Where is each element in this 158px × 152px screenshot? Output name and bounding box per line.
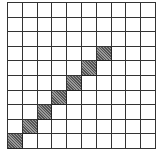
grid-cell <box>67 120 82 135</box>
grid-cell <box>82 76 97 91</box>
grid-cell <box>67 134 82 149</box>
grid-cell <box>52 61 67 76</box>
grid-cell <box>126 134 141 149</box>
grid-cell <box>8 18 23 33</box>
grid-cell <box>126 76 141 91</box>
grid-cell <box>38 61 53 76</box>
grid-cell <box>112 134 127 149</box>
grid-cell <box>126 32 141 47</box>
grid-cell <box>52 134 67 149</box>
grid-cell <box>141 76 156 91</box>
grid-cell <box>82 32 97 47</box>
grid-cell <box>126 3 141 18</box>
grid-cell <box>38 47 53 62</box>
grid-cell <box>141 91 156 106</box>
grid-cell <box>8 120 23 135</box>
grid-cell <box>82 47 97 62</box>
grid-cell <box>8 105 23 120</box>
grid-cell <box>141 134 156 149</box>
shaded-cell <box>52 91 67 106</box>
grid-cell <box>126 18 141 33</box>
shaded-cell <box>38 105 53 120</box>
grid-cell <box>112 105 127 120</box>
grid-cell <box>38 120 53 135</box>
grid-cell <box>97 91 112 106</box>
grid-cell <box>52 105 67 120</box>
grid-cell <box>52 3 67 18</box>
grid-cell <box>8 47 23 62</box>
grid-cell <box>126 120 141 135</box>
grid-cell <box>23 18 38 33</box>
grid-cell <box>23 32 38 47</box>
grid-cell <box>126 47 141 62</box>
grid-cell <box>112 3 127 18</box>
grid-cell <box>23 47 38 62</box>
shaded-cell <box>23 120 38 135</box>
grid-cell <box>38 3 53 18</box>
grid-cell <box>112 18 127 33</box>
grid-cell <box>97 134 112 149</box>
grid-cell <box>23 76 38 91</box>
grid-cell <box>67 32 82 47</box>
grid-cell <box>67 47 82 62</box>
grid-cell <box>126 91 141 106</box>
grid-cell <box>67 61 82 76</box>
shaded-cell <box>67 76 82 91</box>
grid-cell <box>97 61 112 76</box>
grid-cell <box>112 47 127 62</box>
grid-cell <box>82 3 97 18</box>
grid-cell <box>112 91 127 106</box>
grid-cell <box>141 3 156 18</box>
grid-cell <box>141 61 156 76</box>
grid-cell <box>38 134 53 149</box>
grid-cell <box>8 61 23 76</box>
grid-cell <box>23 105 38 120</box>
grid-cell <box>23 134 38 149</box>
shaded-cell <box>8 134 23 149</box>
grid-cell <box>23 91 38 106</box>
grid-cell <box>67 91 82 106</box>
grid-cell <box>8 91 23 106</box>
grid-cell <box>97 120 112 135</box>
grid-cell <box>52 18 67 33</box>
grid-cell <box>52 47 67 62</box>
grid-cell <box>97 32 112 47</box>
grid-cell <box>38 32 53 47</box>
grid-cell <box>97 105 112 120</box>
grid-cell <box>82 91 97 106</box>
grid-cell <box>141 105 156 120</box>
grid-cell <box>23 3 38 18</box>
grid-cell <box>82 18 97 33</box>
shaded-cell <box>97 47 112 62</box>
grid-cell <box>38 18 53 33</box>
grid-cell <box>112 76 127 91</box>
grid-cell <box>8 32 23 47</box>
grid-cell <box>8 76 23 91</box>
grid-cell <box>126 105 141 120</box>
grid-cell <box>82 105 97 120</box>
grid-cell <box>97 3 112 18</box>
grid-cell <box>112 32 127 47</box>
grid-cell <box>97 18 112 33</box>
grid-cell <box>8 3 23 18</box>
grid-cell <box>112 61 127 76</box>
grid-cell <box>141 18 156 33</box>
grid-cell <box>67 18 82 33</box>
grid-cell <box>52 32 67 47</box>
grid-cell <box>141 32 156 47</box>
grid-cell <box>38 76 53 91</box>
grid-cell <box>23 61 38 76</box>
grid-cell <box>126 61 141 76</box>
grid-cell <box>52 76 67 91</box>
grid-cell <box>38 91 53 106</box>
grid-cell <box>82 120 97 135</box>
grid-cell <box>141 120 156 135</box>
diagonal-grid <box>7 2 156 149</box>
grid-cell <box>67 3 82 18</box>
grid-cell <box>97 76 112 91</box>
grid-cell <box>141 47 156 62</box>
grid-cell <box>67 105 82 120</box>
shaded-cell <box>82 61 97 76</box>
grid-cell <box>82 134 97 149</box>
grid-cell <box>52 120 67 135</box>
